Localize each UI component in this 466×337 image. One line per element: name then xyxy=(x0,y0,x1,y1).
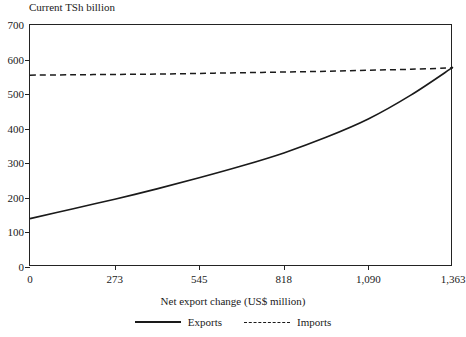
series-layer xyxy=(30,25,453,267)
y-tick-label: 400 xyxy=(8,123,25,135)
y-tick-mark xyxy=(25,267,30,268)
series-line-imports xyxy=(30,68,453,75)
x-axis-label: Net export change (US$ million) xyxy=(0,295,466,307)
chart-title: Current TSh billion xyxy=(29,1,115,14)
legend-item-exports[interactable]: Exports xyxy=(135,316,222,328)
legend-key-exports xyxy=(135,321,181,323)
x-tick-label: 818 xyxy=(276,273,293,285)
y-tick-label: 300 xyxy=(8,157,25,169)
plot-area: 0100200300400500600700 02735458181,0901,… xyxy=(29,24,452,266)
y-tick-label: 200 xyxy=(8,192,25,204)
legend-label: Exports xyxy=(188,316,222,328)
x-tick-label: 545 xyxy=(191,273,208,285)
x-tick-label: 1,090 xyxy=(356,273,381,285)
series-line-exports xyxy=(30,67,453,218)
y-tick-label: 600 xyxy=(8,54,25,66)
y-tick-label: 700 xyxy=(8,19,25,31)
y-tick-label: 0 xyxy=(19,261,25,273)
legend-key-imports xyxy=(244,322,290,323)
chart-legend: ExportsImports xyxy=(0,316,466,328)
legend-item-imports[interactable]: Imports xyxy=(244,316,331,328)
x-tick-label: 0 xyxy=(27,273,33,285)
y-tick-label: 500 xyxy=(8,88,25,100)
x-tick-label: 1,363 xyxy=(441,273,466,285)
x-tick-label: 273 xyxy=(106,273,123,285)
legend-label: Imports xyxy=(297,316,331,328)
chart-container: Current TSh billion 01002003004005006007… xyxy=(0,0,466,337)
y-tick-label: 100 xyxy=(8,226,25,238)
